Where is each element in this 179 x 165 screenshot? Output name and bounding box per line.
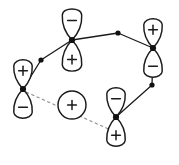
solid-bond-layer (23, 33, 153, 117)
vertex-orbital-right (150, 45, 156, 51)
orbital-right-lower-lobe (144, 48, 163, 77)
orbital-top-center-upper-lobe (62, 9, 81, 40)
diagram-canvas (0, 0, 179, 165)
vertex-orbital-left (20, 86, 26, 92)
orbital-phase-diagram (0, 0, 179, 165)
vertex-right-lower (149, 82, 154, 87)
orbital-lobe-layer (14, 9, 163, 146)
vertex-left-mid (38, 57, 43, 62)
orbital-bottom-right-upper-lobe (107, 88, 126, 117)
vertex-top-right (115, 30, 120, 35)
vertex-dot-layer (20, 30, 156, 120)
vertex-orbital-top-center (69, 37, 75, 43)
bond-topcenter-to-vertex (72, 33, 118, 40)
vertex-orbital-bottom-right (113, 114, 119, 120)
phase-sign-layer (19, 20, 158, 139)
orbital-left-lower-lobe (14, 89, 33, 118)
